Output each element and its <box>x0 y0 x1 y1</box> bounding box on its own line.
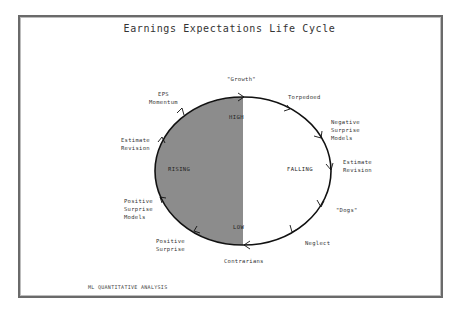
stage-label-estimate-revision-falling: Estimate Revision <box>343 158 372 174</box>
stage-label-neglect: Neglect <box>305 239 330 247</box>
stage-label-dogs: "Dogs" <box>336 206 358 214</box>
arrow-icon <box>177 108 184 115</box>
stage-label-positive-surprise: Positive Surprise <box>156 237 185 253</box>
stage-label-positive-surprise-models: Positive Surprise Models <box>124 197 153 221</box>
stage-label-estimate-revision-rising: Estimate Revision <box>121 136 150 152</box>
stage-label-torpedoed: Torpedoed <box>288 93 321 101</box>
stage-label-growth: "Growth" <box>227 75 256 83</box>
half-label-falling: FALLING <box>287 166 313 172</box>
arrow-icon <box>326 163 333 170</box>
pole-label-low: LOW <box>233 224 244 230</box>
stage-label-eps-momentum: EPS Momentum <box>149 90 178 106</box>
half-label-rising: RISING <box>168 166 190 172</box>
life-cycle-ellipse <box>0 0 459 317</box>
pole-label-high: HIGH <box>229 114 244 120</box>
footer-source: ML QUANTITATIVE ANALYSIS <box>88 284 167 290</box>
stage-label-negative-surprise-models: Negative Surprise Models <box>331 118 360 142</box>
arrow-icon <box>290 225 298 232</box>
stage-label-contrarians: Contrarians <box>224 257 264 265</box>
